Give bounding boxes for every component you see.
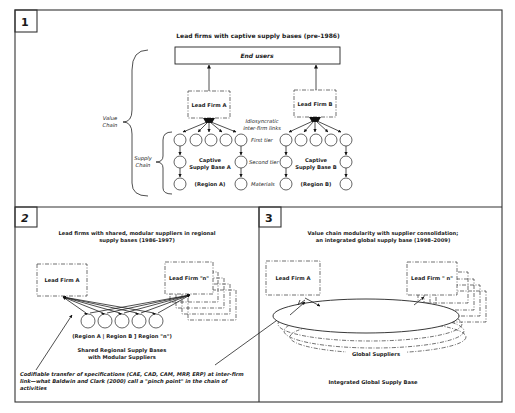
p3-lead-firm-n-label: Lead Firm " n" — [411, 275, 453, 281]
idiosyncratic-label-2: inter-firm links — [243, 125, 281, 131]
integrated-supply-base-label: Integrated Global Supply Base — [328, 379, 418, 386]
panel-3-title-2: an integrated global supply base (1998–2… — [316, 237, 451, 244]
panel-2-number: 2 — [21, 212, 29, 225]
value-chain-label-2: Chain — [103, 122, 118, 128]
p2-note-line-1: Codifiable transfer of specifications (C… — [20, 371, 244, 378]
lead-firm-b-label: Lead Firm B — [298, 101, 333, 107]
p2-shared-label-2: with Modular Suppliers — [88, 354, 156, 361]
materials-label: Materials — [251, 181, 275, 187]
supply-base-a-label-2: Supply Base A — [189, 164, 231, 171]
p3-lead-firm-a-label: Lead Firm A — [276, 275, 311, 281]
p2-shared-label-1: Shared Regional Supply Bases — [78, 347, 167, 354]
p2-lead-firm-n-label: Lead Firm "n" — [169, 275, 209, 281]
idiosyncratic-links-a — [183, 122, 236, 132]
p2-regions-label: (Region A | Region B ] Region "n") — [72, 333, 172, 340]
region-a-label: (Region A) — [195, 181, 226, 188]
panel-2-title-1: Lead firms with shared, modular supplier… — [58, 230, 215, 237]
panel-1: Lead firms with captive supply bases (pr… — [103, 32, 352, 196]
value-chain-label-1: Value — [103, 115, 117, 121]
global-suppliers-label: Global Suppliers — [352, 351, 400, 358]
p2-note-line-2: link—what Baldwin and Clark (2000) call … — [20, 378, 228, 385]
panel-2-title-2: supply bases (1986-1997) — [99, 237, 175, 244]
p2-lead-firm-a-label: Lead Firm A — [45, 277, 80, 283]
panel-1-title: Lead firms with captive supply bases (pr… — [176, 32, 340, 40]
supply-chain-label-2: Chain — [136, 162, 151, 168]
modular-suppliers — [81, 314, 163, 328]
panel-3-number: 3 — [265, 212, 273, 225]
links-to-lead-firm-a — [63, 297, 154, 313]
lead-firm-a-label: Lead Firm A — [192, 102, 227, 108]
region-b-label: (Region B) — [301, 181, 332, 188]
p2-note-line-3: activities — [20, 385, 47, 391]
panel-3-title-1: Value chain modularity with supplier con… — [308, 230, 459, 237]
idiosyncratic-links-b — [289, 121, 341, 132]
integrated-supply-base-ellipse — [273, 299, 459, 333]
supply-base-b-label-1: Captive — [305, 157, 328, 164]
diagram-canvas: 1 2 3 Lead firms with captive supply bas… — [0, 0, 515, 413]
first-tier-b — [280, 134, 352, 146]
idiosyncratic-label-1: Idiosyncratic — [246, 118, 279, 125]
supply-base-a-label-1: Captive — [199, 157, 222, 164]
first-tier-a — [174, 134, 247, 146]
second-tier-label: Second tier — [249, 159, 279, 165]
pinch-point-arrow-left — [36, 315, 72, 370]
panel-1-number: 1 — [21, 16, 29, 29]
panel-frames — [15, 10, 502, 402]
value-chain-brace — [123, 50, 148, 196]
panel-2: Lead firms with shared, modular supplier… — [20, 230, 305, 391]
first-tier-label: First tier — [251, 137, 274, 143]
end-users-label: End users — [240, 52, 274, 59]
supply-base-b-label-2: Supply Base B — [295, 164, 337, 171]
panel-3: Value chain modularity with supplier con… — [266, 230, 486, 386]
supply-chain-label-1: Supply — [134, 155, 153, 162]
supply-chain-brace — [156, 132, 172, 194]
